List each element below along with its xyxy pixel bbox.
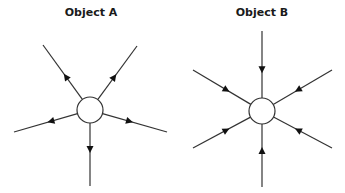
object-b-ray-upper-right [273, 70, 332, 104]
arrowhead-icon [47, 117, 55, 124]
object-b-field [193, 31, 332, 187]
arrowhead-icon [125, 117, 133, 124]
arrowhead-icon [87, 146, 94, 153]
field-lines-diagram [0, 0, 345, 193]
arrowhead-icon [109, 74, 116, 82]
object-b-ray-lower-left [193, 117, 251, 148]
object-a-ray-right [102, 114, 167, 132]
object-a-ray-left [14, 114, 78, 132]
arrowhead-icon [259, 66, 266, 73]
object-a-ray-upper-right [98, 46, 137, 100]
object-a-ray-upper-left [43, 45, 82, 99]
arrowhead-icon [64, 74, 71, 82]
object-a-field [14, 45, 167, 186]
arrowhead-icon [259, 147, 266, 154]
object-b-circle [249, 98, 275, 124]
object-a-circle [77, 97, 103, 123]
object-b-ray-upper-left [193, 70, 251, 104]
object-b-ray-lower-right [273, 117, 332, 148]
